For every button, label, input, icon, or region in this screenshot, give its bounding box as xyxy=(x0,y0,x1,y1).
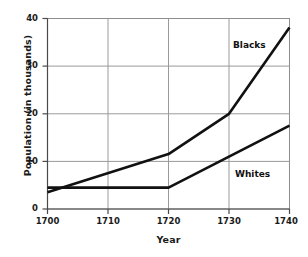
series-label-whites: Whites xyxy=(235,169,270,179)
x-axis-title: Year xyxy=(47,234,290,245)
y-tick-label-40: 40 xyxy=(16,13,38,23)
x-tick-label-1740: 1740 xyxy=(266,216,306,226)
population-line-chart: Population (in thousands) Year 40 30 20 … xyxy=(0,0,308,257)
y-tick-label-0: 0 xyxy=(16,203,38,213)
x-tick-label-1730: 1730 xyxy=(209,216,249,226)
series-label-blacks: Blacks xyxy=(233,40,266,50)
y-tick-label-10: 10 xyxy=(16,156,38,166)
y-tick-label-20: 20 xyxy=(16,108,38,118)
x-tick-label-1700: 1700 xyxy=(28,216,68,226)
x-tick-label-1720: 1720 xyxy=(149,216,189,226)
y-tick-label-30: 30 xyxy=(16,60,38,70)
x-tick-label-1710: 1710 xyxy=(88,216,128,226)
